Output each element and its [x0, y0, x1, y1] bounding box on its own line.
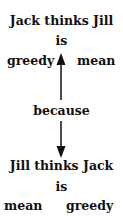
down-arrow-icon — [57, 121, 66, 158]
up-arrow-icon — [57, 53, 66, 100]
arrows-layer — [0, 0, 123, 220]
